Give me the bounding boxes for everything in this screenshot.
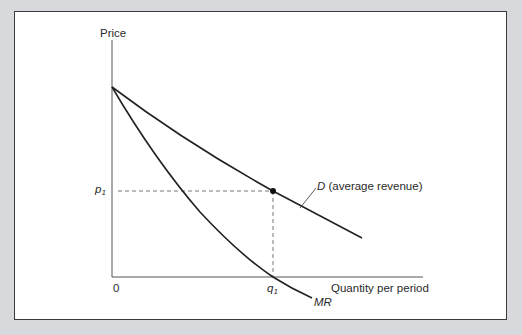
q1-label: q1	[267, 283, 278, 296]
mr-label: MR	[314, 297, 332, 309]
demand-label: D (average revenue)	[317, 181, 422, 193]
figure: Price 0 Quantity per period p1 q1 D (ave…	[0, 0, 522, 335]
p1-label: p1	[95, 184, 106, 197]
y-axis-label: Price	[100, 28, 126, 40]
chart-plot	[0, 0, 522, 335]
equilibrium-point	[270, 188, 276, 194]
d-label-leader	[300, 188, 316, 208]
demand-curve	[112, 87, 362, 238]
x-axis-label: Quantity per period	[331, 283, 429, 295]
mr-curve	[112, 87, 312, 298]
origin-label: 0	[113, 283, 119, 295]
